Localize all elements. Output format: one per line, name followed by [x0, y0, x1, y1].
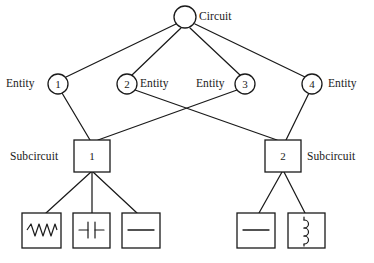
- edge-subcircuit-1-resistor: [46, 172, 91, 213]
- entity-1-number: 1: [48, 78, 68, 90]
- entity-4-number: 4: [302, 78, 322, 90]
- edge-entity-4-subcircuit-2: [286, 93, 309, 140]
- entity-2-label: Entity: [140, 77, 169, 89]
- entity-3-label: Entity: [196, 77, 225, 89]
- component-inductor-box[interactable]: [288, 213, 325, 248]
- edge-group-entities-to-subcircuits: [62, 90, 309, 140]
- edge-circuit-entity-1: [66, 24, 176, 77]
- node-component-resistor[interactable]: [22, 213, 61, 248]
- edge-entity-1-subcircuit-1: [62, 93, 90, 140]
- node-circuit-root[interactable]: [174, 6, 196, 28]
- circuit-root-circle[interactable]: [174, 6, 196, 28]
- edge-circuit-entity-4: [195, 24, 305, 77]
- edge-group-subcircuits-to-components: [46, 172, 305, 213]
- circuit-root-label: Circuit: [199, 10, 232, 22]
- node-component-wire-right[interactable]: [237, 213, 275, 248]
- entity-3-number: 3: [235, 78, 255, 90]
- node-component-wire-left[interactable]: [122, 213, 160, 248]
- edge-subcircuit-2-inductor: [284, 172, 305, 213]
- subcircuit-2-number: 2: [273, 150, 293, 162]
- diagram-canvas: Circuit Entity 1 Entity 2 Entity 3 Entit…: [0, 0, 374, 263]
- edge-subcircuit-1-wire-left: [93, 172, 137, 213]
- subcircuit-2-label: Subcircuit: [307, 150, 355, 162]
- component-capacitor-box[interactable]: [73, 213, 110, 248]
- subcircuit-1-label: Subcircuit: [10, 150, 58, 162]
- edge-group-root-to-entities: [66, 24, 305, 77]
- entity-4-label: Entity: [328, 77, 357, 89]
- edge-circuit-entity-3: [190, 28, 240, 75]
- node-component-inductor[interactable]: [288, 213, 325, 248]
- edge-entity-2-subcircuit-2: [135, 90, 277, 140]
- entity-1-label: Entity: [6, 77, 35, 89]
- edge-entity-3-subcircuit-1: [98, 90, 237, 140]
- diagram-svg: [0, 0, 374, 263]
- entity-2-number: 2: [117, 78, 137, 90]
- edge-circuit-entity-2: [132, 28, 181, 75]
- edge-subcircuit-2-wire-right: [259, 172, 282, 213]
- subcircuit-1-number: 1: [82, 150, 102, 162]
- node-component-capacitor[interactable]: [73, 213, 110, 248]
